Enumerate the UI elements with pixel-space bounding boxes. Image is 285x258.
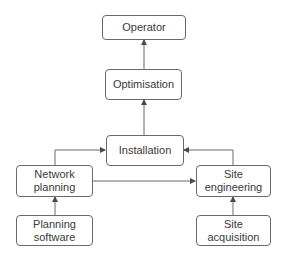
node-label: Planning software bbox=[33, 218, 76, 244]
node-optimisation: Optimisation bbox=[105, 69, 182, 100]
node-site-acquisition: Site acquisition bbox=[196, 215, 271, 246]
node-label: Network planning bbox=[34, 168, 76, 194]
node-installation: Installation bbox=[106, 135, 184, 166]
flowchart-diagram: Operator Optimisation Installation Netwo… bbox=[0, 0, 285, 258]
node-label: Site engineering bbox=[205, 168, 263, 194]
node-site-engineering: Site engineering bbox=[196, 165, 271, 197]
node-network-planning: Network planning bbox=[16, 165, 93, 197]
node-label: Site acquisition bbox=[208, 218, 260, 244]
node-label: Installation bbox=[119, 144, 172, 157]
node-label: Operator bbox=[122, 21, 165, 34]
node-operator: Operator bbox=[102, 15, 186, 40]
node-planning-software: Planning software bbox=[16, 215, 93, 246]
arrow-network-planning-to-installation bbox=[55, 150, 105, 165]
node-label: Optimisation bbox=[113, 78, 174, 91]
arrow-site-engineering-to-installation bbox=[184, 150, 233, 165]
